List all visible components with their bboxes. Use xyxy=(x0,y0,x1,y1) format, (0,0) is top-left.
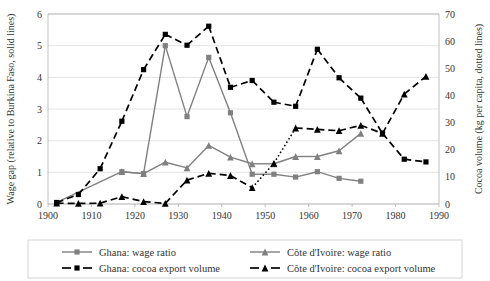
legend-marker-icon xyxy=(262,265,269,272)
right-tick-label: 30 xyxy=(445,117,455,128)
series-segment xyxy=(339,133,361,150)
data-point-marker xyxy=(141,67,146,72)
right-tick-label: 40 xyxy=(445,90,455,101)
right-axis-tick-labels: 010203040506070 xyxy=(445,9,455,210)
legend-marker-icon xyxy=(74,249,79,254)
series-segment xyxy=(339,125,361,130)
data-point-marker xyxy=(358,96,363,101)
x-tick-label: 1950 xyxy=(255,210,275,221)
series-segment xyxy=(317,151,339,157)
series-segment xyxy=(317,129,339,130)
series-layer xyxy=(53,24,429,207)
series-segment xyxy=(274,102,296,106)
data-point-marker xyxy=(163,43,168,48)
chart-legend: Ghana: wage ratioCôte d'Ivoire: wage rat… xyxy=(28,240,462,278)
data-point-marker xyxy=(206,24,211,29)
series-segment xyxy=(165,162,187,168)
series-segment xyxy=(361,98,383,133)
data-point-marker xyxy=(184,114,189,119)
left-tick-label: 1 xyxy=(37,167,42,178)
series-segment xyxy=(165,34,187,45)
legend-label: Côte d'Ivoire: cocoa export volume xyxy=(287,263,436,274)
left-tick-label: 0 xyxy=(37,199,42,210)
x-tick-label: 1980 xyxy=(386,210,406,221)
data-point-marker xyxy=(315,47,320,52)
series-1 xyxy=(118,130,364,177)
legend-label: Côte d'Ivoire: wage ratio xyxy=(287,247,391,258)
chart-container: 1900191019201930194019501960197019801990… xyxy=(0,0,490,281)
data-point-marker xyxy=(423,159,428,164)
series-segment xyxy=(404,76,426,94)
right-tick-label: 60 xyxy=(445,36,455,47)
series-segment xyxy=(252,81,274,103)
x-tick-label: 1970 xyxy=(342,210,362,221)
dual-axis-line-chart: 1900191019201930194019501960197019801990… xyxy=(0,0,490,281)
series-segment xyxy=(165,180,187,203)
series-segment xyxy=(404,159,426,162)
left-tick-label: 6 xyxy=(37,9,42,20)
data-point-marker xyxy=(402,157,407,162)
data-point-marker xyxy=(271,100,276,105)
x-tick-label: 1960 xyxy=(299,210,319,221)
data-point-marker xyxy=(163,32,168,37)
series-segment xyxy=(144,162,166,173)
series-segment xyxy=(165,46,187,117)
right-tick-label: 0 xyxy=(445,199,450,210)
series-2 xyxy=(54,24,428,206)
data-point-marker xyxy=(336,75,341,80)
data-point-marker xyxy=(293,104,298,109)
left-axis-title: Wage gap (relative to Burkina Faso, soli… xyxy=(5,14,17,205)
right-tick-label: 10 xyxy=(445,171,455,182)
series-segment xyxy=(122,197,144,202)
right-tick-label: 70 xyxy=(445,9,455,20)
series-segment xyxy=(383,133,405,159)
series-segment xyxy=(187,26,209,45)
x-tick-label: 1900 xyxy=(38,210,58,221)
series-segment xyxy=(230,113,252,174)
legend-label: Ghana: wage ratio xyxy=(99,247,176,258)
left-tick-label: 2 xyxy=(37,135,42,146)
series-segment xyxy=(209,57,231,112)
series-segment xyxy=(57,172,122,203)
legend-entry[interactable]: Ghana: wage ratio xyxy=(62,247,176,258)
data-point-marker xyxy=(205,142,212,149)
series-segment xyxy=(230,81,252,88)
series-segment xyxy=(274,157,296,164)
left-tick-label: 4 xyxy=(37,72,42,83)
series-segment xyxy=(317,172,339,179)
series-segment xyxy=(339,178,361,181)
data-point-marker xyxy=(119,119,124,124)
series-segment xyxy=(100,121,122,168)
data-point-marker xyxy=(271,172,276,177)
series-segment xyxy=(383,94,405,133)
series-segment xyxy=(144,202,166,204)
legend-marker-icon xyxy=(74,265,79,270)
legend-entry[interactable]: Ghana: cocoa export volume xyxy=(62,263,220,274)
data-point-marker xyxy=(228,85,233,90)
right-tick-label: 20 xyxy=(445,144,455,155)
series-segment xyxy=(296,128,318,129)
data-point-marker xyxy=(250,78,255,83)
data-point-marker xyxy=(98,166,103,171)
legend-entry[interactable]: Côte d'Ivoire: wage ratio xyxy=(250,247,391,258)
left-tick-label: 5 xyxy=(37,40,42,51)
legend-label: Ghana: cocoa export volume xyxy=(99,263,220,274)
x-tick-label: 1920 xyxy=(125,210,145,221)
series-segment xyxy=(296,49,318,106)
series-segment xyxy=(339,78,361,98)
series-segment xyxy=(209,173,231,175)
legend-entry[interactable]: Côte d'Ivoire: cocoa export volume xyxy=(250,263,436,274)
data-point-marker xyxy=(76,192,81,197)
series-3 xyxy=(53,73,429,207)
data-point-marker xyxy=(315,169,320,174)
left-tick-label: 3 xyxy=(37,104,42,115)
data-point-marker xyxy=(184,43,189,48)
data-point-marker xyxy=(423,73,430,80)
gridlines xyxy=(48,14,439,204)
series-segment xyxy=(230,176,252,188)
series-segment xyxy=(187,57,209,116)
x-tick-label: 1940 xyxy=(212,210,232,221)
data-point-marker xyxy=(358,179,363,184)
data-point-marker xyxy=(249,184,256,191)
right-tick-label: 50 xyxy=(445,63,455,74)
